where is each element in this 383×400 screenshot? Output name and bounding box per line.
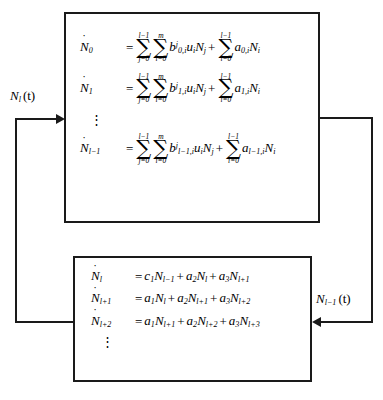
nlp1-term1: a1Nl <box>144 291 165 306</box>
wire-left-top-segment <box>15 118 57 120</box>
right-signal-var: N <box>316 291 325 307</box>
nlp1-dotted-variable: ˙N <box>91 291 100 304</box>
n0-u-term: ui <box>186 40 195 55</box>
n1-ni-term: Ni <box>249 81 260 96</box>
wire-left-bottom-segment <box>15 321 75 323</box>
equation-nl-lhs: ˙Nl <box>91 269 133 284</box>
nlm1-sum-i: m ∑ i=0 <box>153 133 168 164</box>
overdot-icon: ˙ <box>93 307 97 319</box>
left-signal-arg: (t) <box>21 88 37 103</box>
left-signal-var: N <box>10 88 19 104</box>
wire-right-bottom-segment <box>321 321 373 323</box>
n0-sum-j: l−1 ∑ j=0 <box>136 32 151 63</box>
lower-equation-block: ˙Nl = c1Nl−1 + a2Nl + a3Nl+1 ˙Nl+1 = a1N… <box>73 256 312 382</box>
nlm1-u-term: ui <box>194 141 203 156</box>
n1-a-coefficient: a1,i <box>234 81 249 96</box>
nlm1-plus: + <box>214 142 225 155</box>
n1-nj-term: Nj <box>195 81 206 96</box>
nl-term1: c1Nl−1 <box>144 269 174 284</box>
n0-dotted-variable: ˙N <box>80 40 89 53</box>
n1-equals: = <box>124 82 135 95</box>
n0-subscript: 0 <box>89 46 93 55</box>
n1-sum-i: m ∑ i=0 <box>153 73 168 104</box>
equation-n0: ˙N0 = l−1 ∑ j=0 m ∑ i=0 bj0,i ui Nj + <box>80 32 318 63</box>
label-right-signal: Nl−1(t) <box>316 291 353 307</box>
n1-u-term: ui <box>186 81 195 96</box>
equation-nlm1-lhs: ˙Nl−1 <box>80 141 124 156</box>
nlp1-equals: = <box>133 292 144 305</box>
nlp2-op1: + <box>175 315 186 328</box>
n1-sum-j: l−1 ∑ j=0 <box>136 73 151 104</box>
equation-nlm1: ˙Nl−1 = l−1 ∑ j=0 m ∑ i=0 bjl−1,i ui Nj … <box>80 133 318 164</box>
nlm1-dotted-variable: ˙N <box>80 141 89 154</box>
nl-op1: + <box>175 270 186 283</box>
nlp1-op2: + <box>208 292 219 305</box>
nl-term3: a3Nl+1 <box>219 269 250 284</box>
upper-equation-block: ˙N0 = l−1 ∑ j=0 m ∑ i=0 bj0,i ui Nj + <box>64 12 320 223</box>
upper-block-vdots: ⋮ <box>90 114 318 126</box>
nlp1-op1: + <box>166 292 177 305</box>
n1-dotted-variable: ˙N <box>80 81 89 94</box>
n0-ni-term: Ni <box>249 40 260 55</box>
overdot-icon: ˙ <box>93 263 97 275</box>
lower-equation-list: ˙Nl = c1Nl−1 + a2Nl + a3Nl+1 ˙Nl+1 = a1N… <box>91 269 310 348</box>
wire-right-top-segment <box>318 117 373 119</box>
overdot-icon: ˙ <box>82 74 86 86</box>
wire-left-vertical-segment <box>15 118 17 323</box>
diagram-canvas: Nl(t) Nl−1(t) ˙N0 = l−1 ∑ j=0 m <box>0 0 383 400</box>
n0-b-coefficient: bj0,i <box>169 40 186 55</box>
overdot-icon: ˙ <box>82 33 86 45</box>
right-signal-sub: l−1 <box>325 298 337 307</box>
equation-nlp2-lhs: ˙Nl+2 <box>91 314 133 329</box>
nlm1-sum-a: l−1 ∑ i=0 <box>226 133 241 164</box>
n0-equals: = <box>124 41 135 54</box>
overdot-icon: ˙ <box>82 135 86 147</box>
n0-nj-term: Nj <box>195 40 206 55</box>
right-signal-arg: (t) <box>336 291 352 306</box>
equation-nlp1-lhs: ˙Nl+1 <box>91 291 133 306</box>
equation-nlp1: ˙Nl+1 = a1Nl + a2Nl+1 + a3Nl+2 <box>91 291 310 306</box>
equation-nlp2: ˙Nl+2 = a1Nl+1 + a2Nl+2 + a3Nl+3 <box>91 314 310 329</box>
nlm1-equals: = <box>124 142 135 155</box>
nlm1-subscript: l−1 <box>89 147 101 156</box>
equation-n1: ˙N1 = l−1 ∑ j=0 m ∑ i=0 bj1,i ui Nj + <box>80 73 318 104</box>
nlp2-dotted-variable: ˙N <box>91 314 100 327</box>
overdot-icon: ˙ <box>93 285 97 297</box>
nl-equals: = <box>133 270 144 283</box>
nlp2-term2: a2Nl+2 <box>187 314 218 329</box>
n1-sum-a: l−1 ∑ i=0 <box>218 73 233 104</box>
nlp1-term3: a3Nl+2 <box>219 291 250 306</box>
nlp2-term1: a1Nl+1 <box>144 314 175 329</box>
nl-op2: + <box>207 270 218 283</box>
wire-right-vertical-segment <box>371 117 373 323</box>
n0-sum-a: l−1 ∑ i=0 <box>218 32 233 63</box>
nlp1-term2: a2Nl+1 <box>177 291 208 306</box>
nl-subscript: l <box>100 275 102 284</box>
nlm1-sum-j: l−1 ∑ j=0 <box>136 133 151 164</box>
equation-nl: ˙Nl = c1Nl−1 + a2Nl + a3Nl+1 <box>91 269 310 284</box>
arrowhead-into-bottom-block <box>312 317 321 327</box>
nl-dotted-variable: ˙N <box>91 269 100 282</box>
nlp1-subscript: l+1 <box>100 298 112 307</box>
nlp2-term3: a3Nl+3 <box>229 314 260 329</box>
nlm1-nj-term: Nj <box>203 141 214 156</box>
n1-plus: + <box>206 82 217 95</box>
n0-sum-i: m ∑ i=0 <box>153 32 168 63</box>
upper-equation-list: ˙N0 = l−1 ∑ j=0 m ∑ i=0 bj0,i ui Nj + <box>80 32 318 174</box>
n1-subscript: 1 <box>89 87 93 96</box>
equation-n0-lhs: ˙N0 <box>80 40 124 55</box>
n0-a-coefficient: a0,i <box>234 40 249 55</box>
n0-b-subscript: 0,i <box>178 46 186 55</box>
nlm1-b-coefficient: bjl−1,i <box>169 141 194 156</box>
nl-term2: a2Nl <box>186 269 207 284</box>
nlm1-ni-term: Ni <box>264 141 275 156</box>
lower-block-vdots: ⋮ <box>101 336 310 348</box>
nlp2-equals: = <box>133 315 144 328</box>
equation-n1-lhs: ˙N1 <box>80 81 124 96</box>
nlp2-op2: + <box>218 315 229 328</box>
label-left-signal: Nl(t) <box>10 88 37 104</box>
nlm1-a-coefficient: al−1,i <box>242 141 264 156</box>
n0-plus: + <box>206 41 217 54</box>
nlp2-subscript: l+2 <box>100 320 112 329</box>
n1-b-coefficient: bj1,i <box>169 81 186 96</box>
